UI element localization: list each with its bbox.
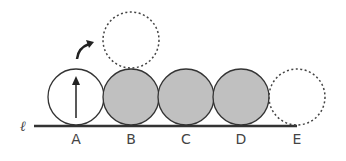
label-a: A — [71, 131, 81, 147]
coin-diagram: ℓ A B C D E — [0, 0, 346, 161]
circle-b — [103, 69, 159, 125]
label-b: B — [126, 131, 136, 147]
label-c: C — [181, 131, 191, 147]
label-e: E — [293, 131, 302, 147]
line-label: ℓ — [20, 118, 26, 134]
label-d: D — [236, 131, 247, 147]
curved-arrow-icon — [77, 40, 94, 59]
circle-e-dashed — [269, 69, 325, 125]
dashed-circle-top — [103, 12, 159, 68]
circle-c — [158, 69, 214, 125]
circle-d — [213, 69, 269, 125]
